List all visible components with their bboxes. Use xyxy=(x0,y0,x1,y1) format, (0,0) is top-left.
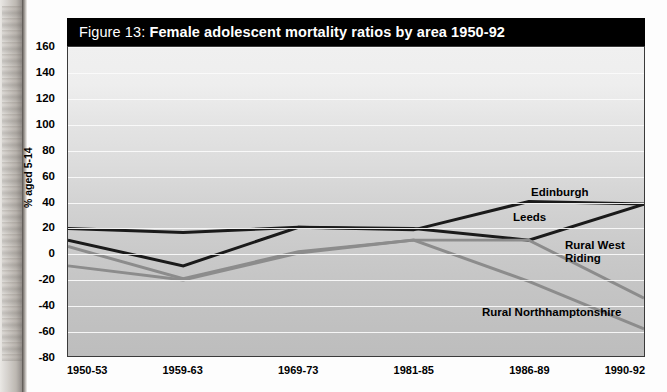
y-tick-label: -80 xyxy=(38,351,55,363)
y-tick-label: -60 xyxy=(38,325,55,337)
y-tick-label: 60 xyxy=(42,170,55,182)
y-tick-label: 140 xyxy=(36,66,55,78)
x-tick-label: 1969-73 xyxy=(278,364,318,376)
x-axis-ticks: 1950-531959-631969-731981-851986-891990-… xyxy=(67,364,645,384)
y-tick-label: 40 xyxy=(42,196,55,208)
figure-title-bar: Figure 13: Female adolescent mortality r… xyxy=(67,18,645,46)
x-tick-label: 1986-89 xyxy=(509,364,549,376)
y-tick-label: -40 xyxy=(38,299,55,311)
grid-line xyxy=(68,47,644,48)
y-tick-label: 100 xyxy=(36,118,55,130)
x-tick-label: 1950-53 xyxy=(67,364,107,376)
series-line-leeds xyxy=(68,204,644,266)
grid-line xyxy=(68,228,644,229)
x-tick-label: 1959-63 xyxy=(162,364,202,376)
x-tick-label: 1990-92 xyxy=(605,364,645,376)
figure-number: Figure 13: xyxy=(79,24,149,40)
grid-line xyxy=(68,99,644,100)
y-tick-label: 0 xyxy=(49,247,55,259)
grid-line xyxy=(68,203,644,204)
y-tick-label: 20 xyxy=(42,221,55,233)
series-label-leeds: Leeds xyxy=(513,211,546,224)
figure-title-text: Female adolescent mortality ratios by ar… xyxy=(149,24,505,40)
grid-line xyxy=(68,254,644,255)
series-line-rural-west-riding xyxy=(68,240,644,298)
series-label-rural-west-riding: Rural West Riding xyxy=(565,239,625,265)
grid-line xyxy=(68,151,644,152)
series-label-rural-northhamptonshire: Rural Northhamptonshire xyxy=(482,306,621,319)
grid-line xyxy=(68,73,644,74)
y-tick-label: 80 xyxy=(42,144,55,156)
y-tick-label: -20 xyxy=(38,273,55,285)
y-axis-ticks: 160140120100806040200-20-40-60-80 xyxy=(0,46,62,357)
grid-line xyxy=(68,332,644,333)
grid-line xyxy=(68,280,644,281)
figure-page: % aged 5-14 160140120100806040200-20-40-… xyxy=(0,0,667,392)
figure-title: Figure 13: Female adolescent mortality r… xyxy=(67,24,505,40)
series-label-edinburgh: Edinburgh xyxy=(531,186,589,199)
grid-line xyxy=(68,177,644,178)
y-tick-label: 160 xyxy=(36,40,55,52)
y-tick-label: 120 xyxy=(36,92,55,104)
grid-line xyxy=(68,125,644,126)
x-tick-label: 1981-85 xyxy=(394,364,434,376)
